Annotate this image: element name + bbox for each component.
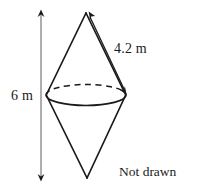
height-dimension-arrow	[38, 10, 45, 182]
note-line-1: Not drawn	[119, 164, 176, 180]
geometry-diagram: 6 m 4.2 m Not drawn accurately	[0, 0, 203, 189]
lower-cone-edges	[47, 96, 126, 179]
base-ellipse-back-dashed	[46, 85, 126, 96]
base-ellipse	[46, 85, 126, 106]
base-ellipse-front-solid	[46, 95, 126, 106]
height-label: 6 m	[11, 88, 33, 105]
not-drawn-accurately-note: Not drawn accurately	[119, 132, 176, 189]
slant-height-label: 4.2 m	[114, 41, 147, 58]
